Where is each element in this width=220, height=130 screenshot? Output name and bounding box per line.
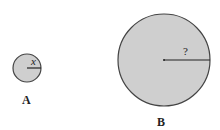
- circle-b-center: [163, 59, 165, 61]
- circle-a-radius-label: x: [30, 55, 36, 67]
- circle-b-radius-label: ?: [183, 45, 188, 57]
- circle-a-label: A: [22, 93, 31, 107]
- circles-diagram: x A ? B: [0, 0, 220, 130]
- circle-a: x A: [13, 54, 41, 107]
- circle-b-label: B: [157, 115, 165, 129]
- circle-b: ? B: [118, 14, 210, 129]
